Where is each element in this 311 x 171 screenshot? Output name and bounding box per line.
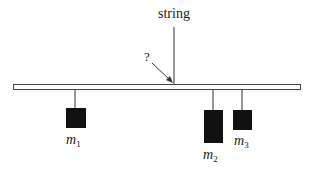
m3-label-subscript: 3 [244,140,249,150]
m2-label-name: m [203,147,213,162]
m3-label-name: m [234,133,244,148]
string-label: string [158,6,190,22]
m2-label: m2 [203,147,218,164]
mass-m1 [66,108,86,128]
question-label: ? [144,49,150,65]
horizontal-bar [14,85,301,90]
m3-label: m3 [234,133,249,150]
mass-m2 [204,110,223,143]
mass-m3 [233,110,252,130]
m1-label-name: m [66,132,76,147]
diagram-canvas [0,0,311,171]
m2-label-subscript: 2 [213,154,218,164]
m1-label: m1 [66,132,81,149]
m1-label-subscript: 1 [76,139,81,149]
